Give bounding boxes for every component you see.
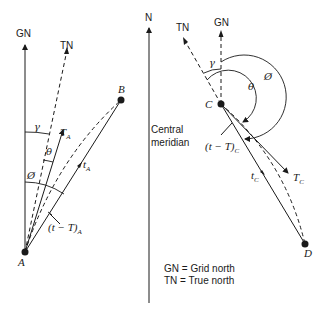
correction-label-a: (t − T)A — [48, 221, 82, 236]
point-b-label: B — [118, 83, 125, 95]
diagram-canvas: GN TN γ θ Ø TA tA (t − T)A A B N Central… — [0, 0, 329, 317]
point-c — [218, 101, 225, 108]
point-b — [118, 97, 125, 104]
gn-label-c: GN — [214, 17, 229, 28]
meridian-label-line1: Central — [151, 124, 183, 135]
ta-small-label: tA — [83, 158, 91, 173]
point-a-label: A — [17, 256, 25, 268]
gn-label-a: GN — [16, 28, 31, 39]
point-a — [22, 249, 29, 256]
meridian-label-line2: meridian — [151, 137, 189, 148]
legend-line-2: TN = True north — [164, 275, 234, 286]
theta-label-c: θ — [248, 81, 254, 92]
point-d-label: D — [303, 247, 312, 259]
theta-arc-a — [43, 160, 53, 162]
tc-small-label: tC — [251, 169, 259, 184]
phi-label-c: Ø — [263, 71, 273, 82]
true-azimuth-line-c — [221, 104, 288, 173]
ta-arrowhead — [77, 162, 82, 168]
correction-label-c: (t − T)C — [205, 140, 239, 155]
phi-arc-c — [221, 55, 286, 139]
legend-line-1: GN = Grid north — [164, 263, 235, 274]
true-azimuth-line-a — [25, 130, 63, 252]
ta-big-label: TA — [60, 126, 71, 141]
gn-arrowhead-c — [219, 30, 224, 37]
correction-leader-c — [221, 123, 232, 135]
theta-label-a: θ — [46, 146, 52, 157]
gamma-arc-a — [25, 132, 49, 134]
tn-label-c: TN — [176, 22, 189, 33]
gamma-label-a: γ — [34, 121, 40, 132]
phi-label-a: Ø — [26, 170, 36, 181]
right-figure — [183, 30, 309, 248]
true-north-line-c — [185, 41, 221, 104]
tn-arrowhead-c — [183, 37, 188, 45]
gamma-arc-c — [204, 69, 221, 73]
point-c-label: C — [205, 98, 213, 110]
north-label: N — [145, 12, 152, 23]
gamma-label-c: γ — [209, 57, 215, 68]
tn-label-a: TN — [60, 40, 73, 51]
tc-big-label: TC — [293, 171, 304, 186]
